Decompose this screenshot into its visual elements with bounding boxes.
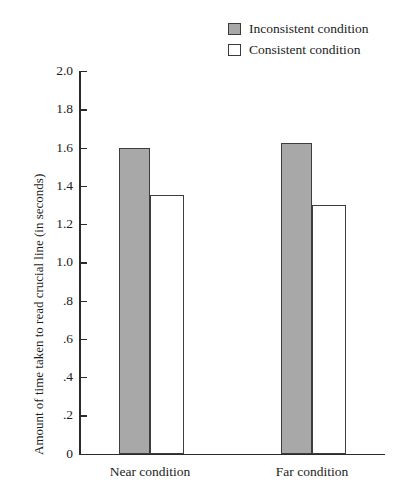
y-axis-tick-label: .2 xyxy=(43,409,73,423)
y-axis-tick xyxy=(79,339,87,340)
y-axis-tick-label: 1.4 xyxy=(43,179,73,193)
y-axis-tick-label: 1.8 xyxy=(43,103,73,117)
chart-figure: Inconsistent condition Consistent condit… xyxy=(0,0,404,504)
y-axis-tick xyxy=(79,109,87,110)
y-axis-tick-label: .4 xyxy=(43,370,73,384)
y-axis-tick xyxy=(79,262,87,263)
y-axis-tick-label: 1.6 xyxy=(43,141,73,155)
bar-inconsistent-far xyxy=(281,143,312,454)
y-axis-tick-labels: 0.2.4.6.81.01.21.41.61.82.0 xyxy=(43,71,73,455)
y-axis-tick xyxy=(79,415,87,416)
y-axis-tick-label: 2.0 xyxy=(43,64,73,78)
y-axis-tick-label: .8 xyxy=(43,294,73,308)
y-axis-tick xyxy=(79,377,87,378)
y-axis-tick-label: 1.2 xyxy=(43,217,73,231)
x-axis-group-label: Far condition xyxy=(276,465,348,479)
bar-consistent-near xyxy=(150,195,184,453)
legend-label-inconsistent: Inconsistent condition xyxy=(249,22,369,36)
y-axis-tick xyxy=(79,224,87,225)
chart-legend: Inconsistent condition Consistent condit… xyxy=(228,18,398,60)
legend-swatch-consistent-icon xyxy=(228,44,241,56)
bar-consistent-far xyxy=(312,205,346,454)
x-axis-group-label: Near condition xyxy=(110,465,191,479)
y-axis-tick-label: .6 xyxy=(43,332,73,346)
y-axis-tick xyxy=(79,301,87,302)
x-axis-line xyxy=(79,454,385,456)
legend-swatch-inconsistent-icon xyxy=(228,23,241,35)
plot-area xyxy=(79,71,385,455)
y-axis-tick-label: 1.0 xyxy=(43,256,73,270)
y-axis-tick-label: 0 xyxy=(43,447,73,461)
bar-inconsistent-near xyxy=(119,148,150,454)
legend-label-consistent: Consistent condition xyxy=(249,43,360,57)
y-axis-tick xyxy=(79,71,87,72)
legend-item-inconsistent: Inconsistent condition xyxy=(228,18,398,39)
legend-item-consistent: Consistent condition xyxy=(228,39,398,60)
y-axis-tick xyxy=(79,148,87,149)
y-axis-tick xyxy=(79,186,87,187)
